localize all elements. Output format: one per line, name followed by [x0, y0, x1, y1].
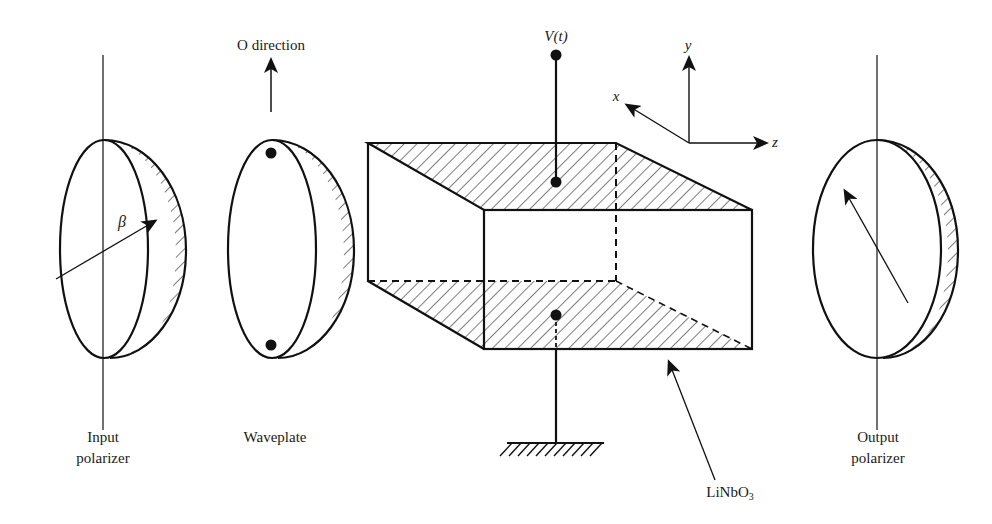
beta-label: β — [114, 213, 130, 230]
waveplate-face — [228, 140, 316, 358]
output-polarizer — [813, 55, 958, 430]
axis-y-label: y — [680, 37, 696, 54]
o-direction-label: O direction — [225, 37, 317, 54]
input-polarizer-label-line1: Input — [68, 429, 138, 446]
crystal-label-main: LiNbO — [706, 484, 749, 500]
axis-z-label: z — [767, 134, 783, 151]
crystal-label-subscript: 3 — [749, 491, 754, 502]
voltage-label-text: V(t) — [544, 28, 567, 44]
input-polarizer-label-line2: polarizer — [68, 450, 138, 467]
waveplate-top-dot — [266, 148, 277, 159]
crystal-top-face — [368, 143, 752, 210]
input-polarizer-label: Input polarizer — [68, 429, 138, 467]
crystal-label: LiNbO3 — [690, 484, 770, 501]
waveplate-label: Waveplate — [234, 429, 316, 446]
output-polarizer-label-line2: polarizer — [838, 450, 918, 467]
coordinate-axes — [627, 58, 766, 143]
input-polarizer — [56, 55, 186, 430]
waveplate — [228, 60, 354, 358]
top-electrode-contact — [551, 177, 562, 188]
output-polarizer-label-line1: Output — [838, 429, 918, 446]
axis-x-label: x — [608, 88, 624, 105]
ground-icon — [500, 443, 604, 456]
linbo3-crystal — [368, 50, 752, 481]
voltage-label: V(t) — [530, 28, 582, 45]
crystal-pointer-arrow — [669, 362, 715, 480]
output-polarizer-label: Output polarizer — [838, 429, 918, 467]
axis-x-arrow — [627, 105, 689, 143]
input-polarizer-face — [60, 140, 148, 358]
waveplate-bottom-dot — [266, 340, 277, 351]
